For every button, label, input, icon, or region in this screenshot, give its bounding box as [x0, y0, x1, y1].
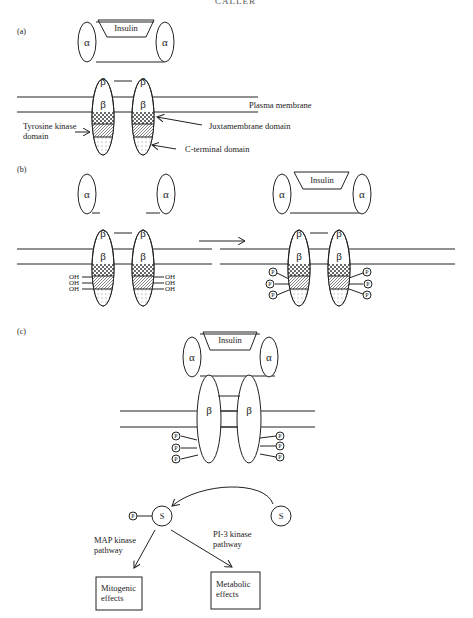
map-kinase-label-2: pathway — [94, 545, 124, 555]
insulin-label: Insulin — [114, 23, 138, 33]
pi3-kinase-label-2: pathway — [213, 539, 243, 549]
alpha-label-left: α — [84, 36, 90, 48]
panel-b: (b) α α β β β β — [17, 165, 455, 309]
svg-text:β: β — [336, 227, 342, 239]
svg-text:S: S — [279, 511, 284, 521]
tyrosine-kinase-label-1: Tyrosine kinase — [23, 121, 77, 131]
phosphate-groups-left: P P P — [172, 432, 198, 463]
panel-a: (a) Insulin α α — [17, 20, 312, 157]
svg-text:α: α — [84, 188, 90, 200]
svg-text:Insulin: Insulin — [218, 335, 242, 345]
svg-text:β: β — [100, 98, 106, 110]
map-kinase-arrow — [134, 530, 155, 568]
svg-text:α: α — [266, 351, 272, 363]
svg-text:β: β — [140, 75, 146, 87]
svg-text:OH: OH — [69, 285, 79, 293]
svg-text:S: S — [160, 511, 165, 521]
svg-text:β: β — [246, 404, 252, 416]
svg-text:β: β — [296, 227, 302, 239]
svg-text:β: β — [100, 250, 106, 262]
svg-text:Metabolic: Metabolic — [216, 579, 251, 589]
svg-text:β: β — [100, 227, 106, 239]
svg-text:α: α — [189, 351, 195, 363]
pi3-kinase-label-1: PI-3 kinase — [213, 529, 252, 539]
panel-a-label: (a) — [17, 27, 26, 36]
beta-subunit-right — [237, 375, 261, 463]
hydroxyl-groups-left: OH OH OH — [69, 273, 93, 293]
substrate-recruitment-arrow — [172, 487, 273, 506]
svg-text:β: β — [100, 75, 106, 87]
svg-text:α: α — [279, 188, 285, 200]
svg-text:α: α — [163, 188, 169, 200]
svg-text:effects: effects — [216, 589, 239, 599]
svg-text:α: α — [359, 188, 365, 200]
juxta-arrow — [157, 117, 202, 125]
juxtamembrane-region — [90, 124, 116, 137]
svg-text:β: β — [336, 250, 342, 262]
svg-text:β: β — [206, 404, 212, 416]
tyrosine-kinase-region — [90, 112, 116, 124]
panel-b-label: (b) — [17, 165, 27, 174]
svg-text:effects: effects — [101, 593, 124, 603]
svg-text:β: β — [140, 227, 146, 239]
phosphate-groups-right: P P P — [260, 432, 284, 461]
panel-c-label: (c) — [17, 327, 26, 336]
cterm-arrow — [152, 145, 176, 149]
juxtamembrane-label: Juxtamembrane domain — [209, 121, 291, 131]
map-kinase-label-1: MAP kinase — [94, 535, 136, 545]
tyrosine-kinase-label-2: domain — [23, 131, 49, 141]
svg-text:OH: OH — [165, 285, 175, 293]
svg-text:β: β — [140, 98, 146, 110]
phosphate-groups-right: P P P — [349, 268, 372, 299]
svg-text:Mitogenic: Mitogenic — [101, 583, 136, 593]
insulin-receptor-diagram: (a) Insulin α α — [0, 0, 473, 618]
svg-text:Insulin: Insulin — [310, 175, 334, 185]
plasma-membrane-label: Plasma membrane — [249, 100, 312, 110]
hydroxyl-groups-right: OH OH OH — [153, 273, 175, 293]
phosphate-groups-left: P P P — [266, 268, 289, 299]
alpha-label-right: α — [162, 36, 168, 48]
panel-c: (c) Insulin α α β β P P P P P — [17, 327, 315, 610]
beta-subunit-left — [197, 375, 221, 463]
c-terminal-label: C-terminal domain — [185, 144, 250, 154]
svg-text:β: β — [140, 250, 146, 262]
svg-text:β: β — [296, 250, 302, 262]
